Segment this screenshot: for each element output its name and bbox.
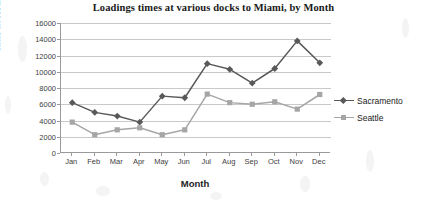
y-tick-label: 12000 — [24, 52, 56, 61]
legend-label-seattle: Seattle — [357, 113, 383, 123]
series-line-sacramento — [72, 41, 320, 122]
data-point-marker — [272, 99, 277, 104]
data-point-marker — [114, 113, 121, 120]
x-tick-mark — [116, 153, 117, 156]
x-tick-mark — [229, 153, 230, 156]
x-axis-title: Month — [60, 178, 330, 189]
data-point-marker — [69, 99, 76, 106]
chart-legend: Sacramento Seattle — [334, 92, 403, 126]
y-tick-label: 14000 — [24, 35, 56, 44]
chart-title: Loadings times at various docks to Miami… — [0, 2, 427, 13]
plot-area — [60, 23, 330, 153]
data-point-marker — [227, 100, 232, 105]
y-tick-label: 10000 — [24, 68, 56, 77]
data-point-marker — [70, 120, 75, 125]
data-point-marker — [160, 132, 165, 137]
y-tick-label: 16000 — [24, 19, 56, 28]
data-point-marker — [226, 66, 233, 73]
x-tick-mark — [161, 153, 162, 156]
legend-marker-sacramento-icon — [334, 96, 354, 105]
y-tick-label: 8000 — [24, 84, 56, 93]
data-point-marker — [182, 127, 187, 132]
data-point-marker — [91, 109, 98, 116]
x-tick-mark — [94, 153, 95, 156]
x-tick-mark — [71, 153, 72, 156]
y-axis-title: Time in Hours — [0, 0, 2, 52]
legend-item-sacramento: Sacramento — [334, 92, 403, 109]
y-tick-label: 2000 — [24, 133, 56, 142]
data-point-marker — [115, 127, 120, 132]
series-lines — [61, 23, 331, 153]
y-tick-label: 4000 — [24, 117, 56, 126]
data-point-marker — [205, 91, 210, 96]
y-tick-mark — [57, 153, 60, 154]
x-tick-mark — [184, 153, 185, 156]
legend-marker-seattle-icon — [334, 113, 354, 122]
legend-label-sacramento: Sacramento — [357, 96, 403, 106]
legend-item-seattle: Seattle — [334, 109, 403, 126]
x-tick-mark — [139, 153, 140, 156]
data-point-marker — [295, 107, 300, 112]
data-point-marker — [317, 92, 322, 97]
x-tick-mark — [251, 153, 252, 156]
x-tick-mark — [319, 153, 320, 156]
x-tick-label: Dec — [304, 157, 334, 166]
data-point-marker — [92, 132, 97, 137]
x-tick-mark — [206, 153, 207, 156]
x-tick-mark — [296, 153, 297, 156]
x-tick-mark — [274, 153, 275, 156]
data-point-marker — [137, 125, 142, 130]
y-tick-label: 6000 — [24, 100, 56, 109]
line-chart: Loadings times at various docks to Miami… — [0, 0, 427, 201]
data-point-marker — [250, 102, 255, 107]
y-tick-label: 0 — [24, 149, 56, 158]
